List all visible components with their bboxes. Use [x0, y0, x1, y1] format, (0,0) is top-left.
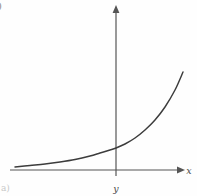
figure-container: x y ) a): [0, 0, 197, 196]
arrow-up-icon: [113, 5, 120, 13]
y-axis-label: y: [112, 183, 119, 194]
arrow-right-icon: [177, 167, 185, 174]
x-axis-label: x: [186, 165, 192, 176]
exponential-curve: [15, 72, 183, 167]
panel-label-top: ): [0, 1, 2, 11]
exponential-plot: x y: [0, 0, 197, 196]
panel-label-bottom: a): [1, 184, 10, 193]
